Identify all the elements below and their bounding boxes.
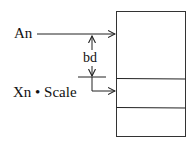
displacement-label: bd [83,50,97,65]
index-scale-label: Xn • Scale [13,84,77,100]
index-pointer-arrow [92,77,115,91]
memory-cell-divider-1 [117,79,186,80]
memory-block-outline [117,12,186,137]
addressing-diagram: An bd Xn • Scale [0,0,194,142]
memory-cell-divider-2 [117,108,186,109]
memory-block [117,12,186,137]
base-register-label: An [14,25,33,41]
